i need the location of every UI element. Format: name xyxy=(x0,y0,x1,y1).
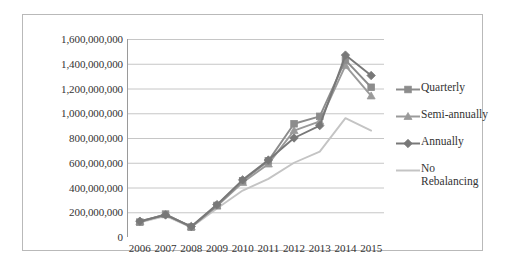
x-tick-label: 2010 xyxy=(232,242,254,254)
data-point-marker xyxy=(291,120,298,127)
legend-swatch-triangle-icon xyxy=(395,109,421,122)
y-axis-labels: 0200,000,000400,000,000600,000,000800,00… xyxy=(23,15,123,252)
y-tick-label: 200,000,000 xyxy=(69,207,123,218)
x-tick-label: 2015 xyxy=(360,242,382,254)
series-line xyxy=(140,66,371,227)
data-point-marker xyxy=(404,139,412,147)
x-tick-label: 2014 xyxy=(334,242,356,254)
legend-label: Semi-annually xyxy=(421,108,488,121)
chart-legend: QuarterlySemi-annuallyAnnuallyNo Rebalan… xyxy=(395,81,503,201)
y-tick-label: 1,600,000,000 xyxy=(61,34,123,45)
y-tick-label: 400,000,000 xyxy=(69,183,123,194)
y-tick-label: 600,000,000 xyxy=(69,158,123,169)
series-semi-annually xyxy=(136,62,375,230)
chart-container: 0200,000,000400,000,000600,000,000800,00… xyxy=(22,14,483,251)
data-point-marker xyxy=(405,86,412,93)
legend-item[interactable]: Annually xyxy=(395,135,503,149)
x-tick-label: 2011 xyxy=(258,242,280,254)
series-line xyxy=(140,55,371,226)
legend-item[interactable]: Semi-annually xyxy=(395,108,503,122)
legend-swatch-square-icon xyxy=(395,82,421,95)
x-tick-label: 2009 xyxy=(206,242,228,254)
legend-label: No Rebalancing xyxy=(421,162,478,188)
x-tick-label: 2008 xyxy=(180,242,202,254)
x-tick-label: 2007 xyxy=(155,242,177,254)
legend-swatch-none-icon xyxy=(395,163,421,176)
data-point-marker xyxy=(368,84,375,91)
x-tick-label: 2006 xyxy=(129,242,151,254)
series-quarterly xyxy=(137,57,375,231)
legend-label: Quarterly xyxy=(421,81,465,94)
y-tick-label: 1,000,000,000 xyxy=(61,108,123,119)
y-tick-label: 0 xyxy=(118,232,123,243)
legend-swatch-diamond-icon xyxy=(395,136,421,149)
y-tick-label: 1,200,000,000 xyxy=(61,84,123,95)
legend-item[interactable]: Quarterly xyxy=(395,81,503,95)
legend-label: Annually xyxy=(421,135,464,148)
chart-plot-svg xyxy=(127,39,384,237)
legend-item[interactable]: No Rebalancing xyxy=(395,162,503,188)
plot-area xyxy=(127,39,384,237)
y-tick-label: 1,400,000,000 xyxy=(61,59,123,70)
x-tick-label: 2013 xyxy=(309,242,331,254)
x-axis-labels: 2006200720082009201020112012201320142015 xyxy=(127,242,384,258)
x-tick-label: 2012 xyxy=(283,242,305,254)
y-tick-label: 800,000,000 xyxy=(69,133,123,144)
